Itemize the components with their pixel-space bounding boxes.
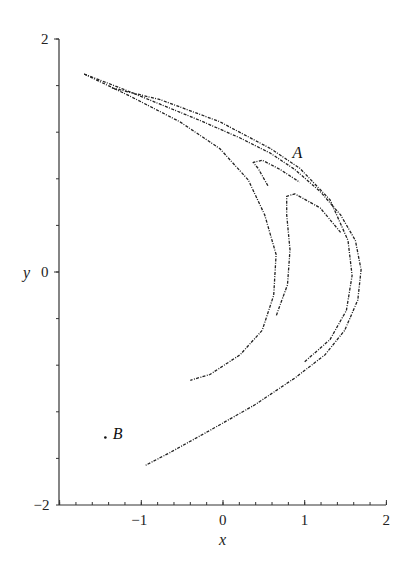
x-ticks: −2−1012 xyxy=(34,497,390,528)
attractor-outer-inner-band xyxy=(112,88,352,362)
y-ticks: 20 xyxy=(41,31,59,505)
y-tick-label: 0 xyxy=(41,264,49,280)
attractor-points xyxy=(84,74,361,465)
attractor-inner-fold xyxy=(276,194,341,316)
attractor-outer-branch xyxy=(84,74,361,465)
annotations: AB xyxy=(104,144,302,442)
y-axis-label: y xyxy=(21,264,31,282)
point-b-marker xyxy=(104,436,107,439)
axes: −2−1012 20 x y xyxy=(21,31,390,548)
x-tick-label: −2 xyxy=(34,497,50,513)
x-tick-label: 0 xyxy=(219,512,227,528)
attractor-fold-a xyxy=(253,160,300,186)
x-tick-label: 2 xyxy=(382,512,390,528)
y-tick-label: 2 xyxy=(41,31,49,47)
label-b: B xyxy=(113,425,123,442)
chart: −2−1012 20 x y AB xyxy=(0,0,408,568)
label-a: A xyxy=(291,144,302,161)
attractor-middle-branch xyxy=(84,74,276,380)
x-tick-label: 1 xyxy=(301,512,309,528)
x-tick-label: −1 xyxy=(131,512,147,528)
x-axis-label: x xyxy=(218,531,226,548)
